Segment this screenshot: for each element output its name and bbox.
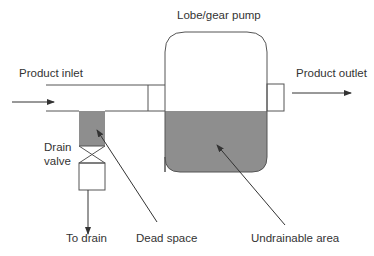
- dead-space-leader: [97, 130, 157, 222]
- drain-valve-body: [79, 163, 105, 190]
- undrainable-area-fill: [165, 111, 267, 172]
- undrainable-area-label: Undrainable area: [251, 232, 339, 245]
- outlet-flange: [267, 84, 284, 111]
- dead-space-fill: [79, 111, 105, 146]
- pump-label: Lobe/gear pump: [177, 9, 261, 22]
- dead-space-label: Dead space: [136, 232, 197, 245]
- drain-valve-icon: [79, 146, 105, 163]
- pump-diagram: [0, 0, 374, 256]
- drain-valve-label-line1: Drain: [44, 141, 71, 154]
- drain-valve-label-line2: valve: [44, 155, 71, 168]
- outlet-label: Product outlet: [296, 67, 367, 80]
- to-drain-label: To drain: [66, 232, 107, 245]
- inlet-label: Product inlet: [19, 67, 83, 80]
